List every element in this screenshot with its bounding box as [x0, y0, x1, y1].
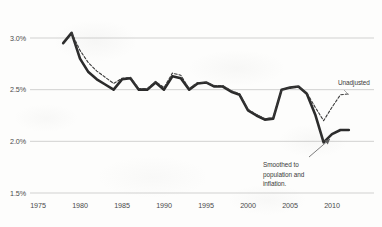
series-line-smoothed — [63, 33, 349, 143]
chart-plot-area — [0, 0, 382, 227]
annotation-line-1: Smoothed to — [263, 160, 329, 170]
unadjusted-series-label: Unadjusted — [338, 79, 370, 86]
annotation-leader-lines-group — [309, 90, 349, 157]
annotation-line-2: population and — [263, 170, 329, 180]
series-lines-group — [63, 33, 349, 143]
chart-screenshot: 3.0%2.5%2.0%1.5% 19751980198519901995200… — [0, 0, 382, 227]
smoothed-series-annotation: Smoothed to population and inflation. — [263, 160, 329, 189]
series-line-unadjusted — [72, 33, 349, 121]
annotation-line-3: inflation. — [263, 179, 329, 189]
